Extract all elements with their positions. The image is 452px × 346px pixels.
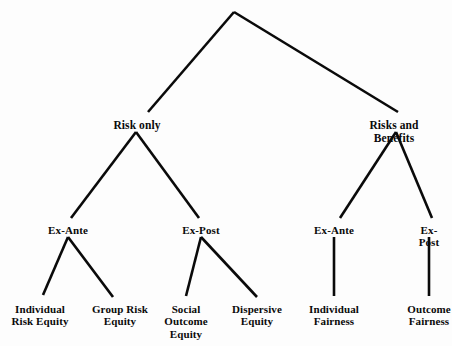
tree-node-dispersive-equity: Dispersive Equity (232, 303, 282, 328)
tree-node-ex-post-benefits: Ex-Post (418, 224, 441, 249)
tree-edge-root-to-risks-and-benefits (234, 12, 398, 112)
tree-edge-benefits-to-ex-ante (340, 132, 396, 218)
tree-edge-risk-only-to-ex-ante (71, 132, 136, 218)
tree-node-ex-post-risk: Ex-Post (182, 224, 219, 236)
tree-node-ex-ante-risk: Ex-Ante (48, 224, 88, 236)
tree-node-social-outcome-equity: Social Outcome Equity (164, 303, 207, 340)
edges-group (43, 12, 432, 297)
tree-edge-risk-only-to-ex-post (136, 132, 199, 218)
tree-edge-ex-post-to-dispersive (201, 237, 257, 297)
tree-edge-ex-ante-to-individual-risk (43, 237, 68, 295)
tree-edge-ex-ante-to-group-risk (68, 237, 113, 297)
tree-edge-benefits-to-ex-post (396, 132, 432, 218)
tree-edge-root-to-risk-only (148, 12, 234, 112)
tree-node-outcome-fairness: Outcome Fairness (407, 303, 450, 328)
tree-node-risks-and-benefits: Risks and Benefits (365, 119, 423, 145)
tree-edges-layer (0, 0, 452, 346)
tree-node-risk-only: Risk only (113, 119, 160, 132)
tree-node-individual-risk-equity: Individual Risk Equity (11, 303, 68, 328)
tree-node-group-risk-equity: Group Risk Equity (92, 303, 148, 328)
tree-edge-ex-post-to-social-outcome (186, 237, 201, 296)
tree-node-individual-fairness: Individual Fairness (309, 303, 359, 328)
tree-node-ex-ante-benefits: Ex-Ante (314, 224, 354, 236)
risk-equity-taxonomy-diagram: Risk onlyRisks and BenefitsEx-AnteEx-Pos… (0, 0, 452, 346)
